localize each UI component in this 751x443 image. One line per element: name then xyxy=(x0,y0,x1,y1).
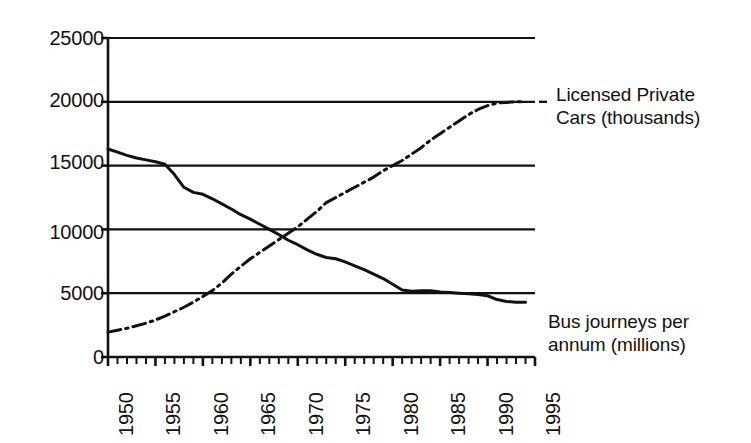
x-tick-label-1950: 1950 xyxy=(116,392,136,436)
annotation-licensed-private-cars: Licensed Private Cars (thousands) xyxy=(556,83,700,129)
x-tick-label-1955: 1955 xyxy=(163,392,183,436)
annotation-bus-journeys: Bus journeys per annum (millions) xyxy=(548,310,689,356)
x-tick-label-1990: 1990 xyxy=(496,392,516,436)
x-tick-label-1975: 1975 xyxy=(353,392,373,436)
chart-figure: 25000 20000 15000 10000 5000 0 195019551… xyxy=(0,0,751,443)
annotation-cars-line-2: Cars (thousands) xyxy=(556,106,700,129)
x-tick-label-1965: 1965 xyxy=(258,392,278,436)
x-tick-label-1995: 1995 xyxy=(543,392,563,436)
x-tick-label-1970: 1970 xyxy=(306,392,326,436)
annotation-bus-line-2: annum (millions) xyxy=(548,333,689,356)
x-tick-label-1960: 1960 xyxy=(211,392,231,436)
annotation-cars-line-1: Licensed Private xyxy=(556,83,700,106)
x-tick-label-1985: 1985 xyxy=(448,392,468,436)
annotation-bus-line-1: Bus journeys per xyxy=(548,310,689,333)
x-tick-label-1980: 1980 xyxy=(401,392,421,436)
x-axis-tick-labels: 1950195519601965197019751980198519901995 xyxy=(0,0,751,443)
